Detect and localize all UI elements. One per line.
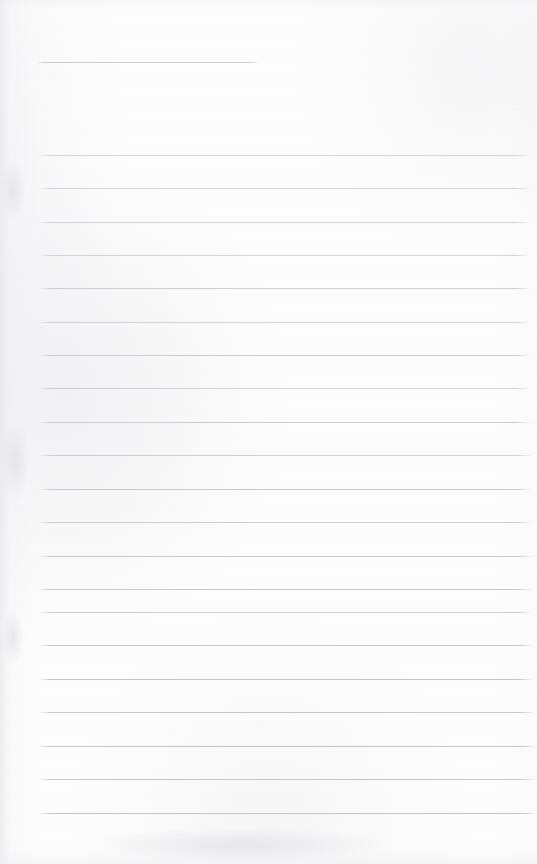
rule-20 <box>38 779 536 780</box>
rule-9 <box>38 422 531 423</box>
smudge-bottom-band <box>90 828 390 862</box>
page-edge-shadow-top <box>0 0 537 8</box>
rule-5 <box>38 288 531 289</box>
rule-header-short <box>37 62 258 63</box>
rule-12 <box>38 522 532 523</box>
smudge-left-lower <box>2 610 24 664</box>
rule-14 <box>38 589 533 590</box>
rule-15 <box>38 612 533 613</box>
smudge-left-mid <box>0 420 30 500</box>
scanned-page <box>0 0 537 864</box>
rule-13 <box>38 556 533 557</box>
rule-6 <box>38 322 531 323</box>
rule-4 <box>38 255 531 256</box>
page-edge-shadow-left <box>0 0 10 864</box>
smudge-left-upper <box>0 160 26 220</box>
scan-banding-texture <box>0 0 537 864</box>
rule-17 <box>38 679 534 680</box>
rule-21 <box>38 813 537 814</box>
rule-16 <box>38 645 534 646</box>
rule-8 <box>38 388 531 389</box>
rule-18 <box>38 712 535 713</box>
rule-1 <box>38 155 531 156</box>
rule-3 <box>38 222 531 223</box>
rule-11 <box>38 489 532 490</box>
page-edge-shadow-bottom <box>0 850 537 864</box>
rule-2 <box>38 188 531 189</box>
rule-10 <box>38 455 532 456</box>
rule-7 <box>38 355 531 356</box>
paper-texture <box>0 0 537 864</box>
rule-19 <box>38 746 536 747</box>
